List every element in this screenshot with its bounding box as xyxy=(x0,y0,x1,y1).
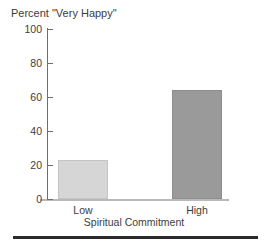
y-axis-tick-label-wrap: 60 xyxy=(8,92,42,103)
chart-figure: Percent "Very Happy" 020406080100 LowHig… xyxy=(0,0,268,246)
y-axis-tick-label-wrap: 100 xyxy=(8,24,42,35)
x-axis-label: Spiritual Commitment xyxy=(0,216,268,228)
bottom-rule xyxy=(13,236,258,239)
bar-low xyxy=(58,160,108,199)
y-axis-tick-label-wrap: 80 xyxy=(8,58,42,69)
y-axis-tick-label: 0 xyxy=(14,194,42,205)
category-label-high: High xyxy=(167,204,227,216)
y-axis-tick-label: 100 xyxy=(14,24,42,35)
x-axis-line xyxy=(40,199,229,201)
y-axis-tick-label: 40 xyxy=(14,126,42,137)
bar-high xyxy=(172,90,222,199)
y-axis-tick-label: 20 xyxy=(14,160,42,171)
chart-title: Percent "Very Happy" xyxy=(11,7,117,20)
plot-area xyxy=(47,29,229,199)
y-axis-tick-label-wrap: 20 xyxy=(8,160,42,171)
y-axis-tick-label-wrap: 0 xyxy=(8,194,42,205)
y-axis-tick-label-wrap: 40 xyxy=(8,126,42,137)
y-axis-tick-label: 80 xyxy=(14,58,42,69)
category-label-low: Low xyxy=(53,204,113,216)
y-axis-tick-label: 60 xyxy=(14,92,42,103)
y-axis-tick xyxy=(47,199,53,200)
